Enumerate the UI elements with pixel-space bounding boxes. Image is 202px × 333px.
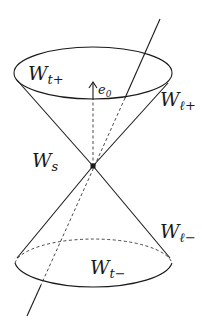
apex-point — [91, 164, 96, 169]
slanted-line-top-solid — [125, 19, 160, 98]
slanted-line-bottom-solid — [27, 285, 41, 316]
label-w-t-plus: Wt+ — [28, 62, 64, 87]
label-w-ell-plus: Wℓ+ — [160, 88, 196, 113]
label-w-t-minus: Wt− — [90, 256, 126, 281]
label-e0: e0 — [98, 82, 112, 99]
lower-right-edge — [93, 166, 170, 258]
upper-left-edge — [16, 79, 93, 166]
label-w-s: Ws — [32, 149, 59, 174]
label-w-ell-minus: Wℓ− — [160, 220, 196, 245]
e0-vector — [89, 82, 97, 166]
light-cone-diagram: Wt+ e0 Wℓ+ Ws Wℓ− Wt− — [0, 0, 202, 333]
lower-left-edge — [17, 166, 93, 258]
slanted-line-inner-dashed — [41, 98, 125, 285]
